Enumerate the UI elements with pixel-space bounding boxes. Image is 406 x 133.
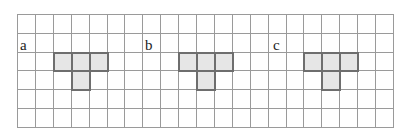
grid-cell [124, 33, 143, 53]
grid-cell [35, 89, 54, 109]
grid-cell [286, 52, 304, 71]
grid-cell [17, 52, 36, 71]
grid-cell [303, 14, 322, 34]
grid-cell [142, 108, 161, 128]
grid-cell [321, 89, 340, 109]
grid-cell [268, 89, 287, 109]
grid-cell [357, 33, 376, 53]
grid-cell [107, 70, 125, 90]
shaded-cell-figure-a [71, 70, 91, 91]
grid-cell [375, 52, 394, 71]
grid-cell [53, 70, 72, 90]
grid-cell [232, 89, 251, 109]
grid-cell [178, 70, 197, 90]
shaded-cell-figure-b [178, 52, 198, 72]
grid-cell [53, 89, 72, 109]
grid-cell [357, 70, 376, 90]
grid-cell [178, 108, 197, 128]
grid-cell [178, 89, 197, 109]
grid-cell [107, 52, 125, 71]
grid-cell [17, 70, 36, 90]
grid-cell [357, 89, 376, 109]
grid-cell [124, 14, 143, 34]
shaded-cell-figure-c [339, 52, 359, 72]
grid-cell [35, 70, 54, 90]
grid-cell [124, 89, 143, 109]
grid-cell [286, 33, 304, 53]
grid-cell [53, 108, 72, 128]
grid-cell [35, 108, 54, 128]
grid-cell [89, 33, 108, 53]
grid-cell [250, 33, 269, 53]
grid-cell [214, 14, 233, 34]
grid-cell [89, 14, 108, 34]
grid-cell [339, 70, 358, 90]
shaded-cell-figure-b [214, 52, 234, 72]
grid-cell [339, 108, 358, 128]
shaded-cell-figure-c [303, 52, 323, 72]
figure-label-c: c [273, 38, 280, 53]
grid-cell [142, 89, 161, 109]
grid-cell [375, 108, 394, 128]
grid-cell [196, 14, 215, 34]
grid-cell [339, 14, 358, 34]
shaded-cell-figure-c [321, 70, 341, 91]
grid-cell [142, 70, 161, 90]
grid-cell [375, 89, 394, 109]
grid-cell [375, 14, 394, 34]
grid-cell [160, 33, 179, 53]
grid-cell [214, 70, 233, 90]
grid-cell [268, 52, 287, 71]
figure-label-a: a [20, 38, 27, 53]
grid-cell [321, 108, 340, 128]
grid-cell [250, 70, 269, 90]
grid-cell [232, 70, 251, 90]
grid-cell [71, 14, 90, 34]
grid-cell [71, 108, 90, 128]
grid-cell [268, 14, 287, 34]
grid-cell [196, 108, 215, 128]
grid-cell [107, 89, 125, 109]
grid-cell [321, 33, 340, 53]
grid-cell [232, 14, 251, 34]
grid-cell [303, 89, 322, 109]
grid-cell [35, 52, 54, 71]
grid-cell [268, 70, 287, 90]
grid-cell [196, 33, 215, 53]
grid-cell [250, 14, 269, 34]
grid-cell [124, 108, 143, 128]
grid-cell [89, 70, 108, 90]
shaded-cell-figure-a [53, 52, 73, 72]
grid-cell [17, 14, 36, 34]
shaded-cell-figure-b [196, 70, 216, 91]
grid-cell [160, 52, 179, 71]
grid-cell [214, 33, 233, 53]
grid-cell [53, 14, 72, 34]
grid-cell [357, 14, 376, 34]
grid-cell [196, 89, 215, 109]
grid-cell [250, 52, 269, 71]
shaded-cell-figure-a [89, 52, 109, 72]
grid-cell [232, 108, 251, 128]
grid-cell [321, 14, 340, 34]
square-grid [17, 14, 393, 127]
grid-cell [286, 70, 304, 90]
grid-cell [303, 70, 322, 90]
grid-cell [142, 14, 161, 34]
grid-cell [286, 14, 304, 34]
grid-cell [357, 108, 376, 128]
shaded-cell-figure-a [71, 52, 91, 72]
grid-cell [375, 33, 394, 53]
grid-cell [303, 33, 322, 53]
grid-cell [160, 70, 179, 90]
grid-cell [178, 14, 197, 34]
grid-cell [250, 108, 269, 128]
grid-cell [232, 52, 251, 71]
grid-cell [17, 89, 36, 109]
grid-cell [71, 33, 90, 53]
grid-cell [107, 14, 125, 34]
grid-cell [107, 108, 125, 128]
grid-cell [375, 70, 394, 90]
shaded-cell-figure-b [196, 52, 216, 72]
grid-cell [178, 33, 197, 53]
